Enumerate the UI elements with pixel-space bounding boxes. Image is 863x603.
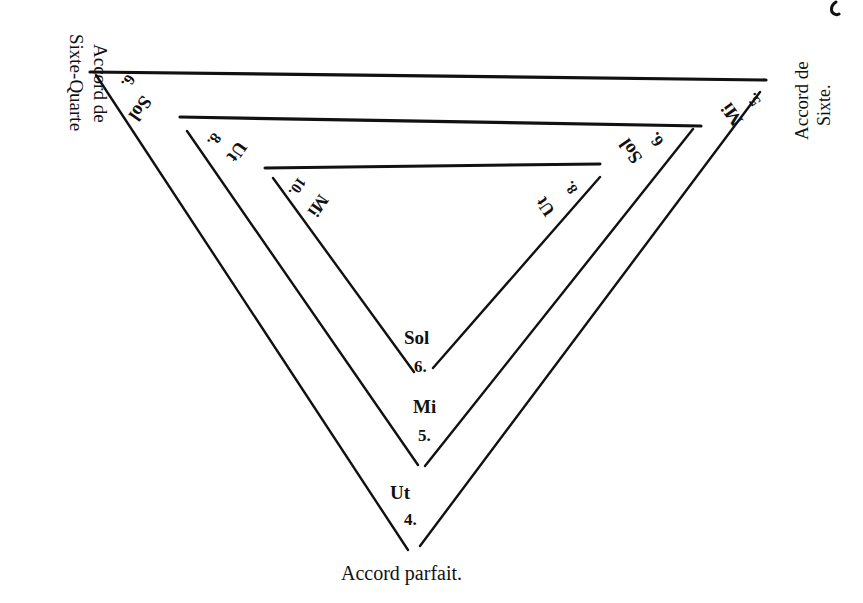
middle-bottom-note: Mi bbox=[413, 396, 436, 417]
outer-left-note: Sol bbox=[125, 92, 157, 125]
outer-left-number: 6. bbox=[118, 71, 139, 91]
outer-triangle bbox=[90, 72, 766, 550]
inner-top-line bbox=[265, 164, 600, 168]
middle-right-line bbox=[425, 129, 693, 466]
middle-top-line bbox=[180, 117, 701, 126]
number-text: 8. bbox=[561, 178, 581, 197]
middle-left-note: Ut bbox=[223, 138, 252, 167]
middle-right-note: Sol bbox=[614, 135, 646, 168]
number-text: 10. bbox=[285, 175, 309, 200]
inner-left-line bbox=[273, 178, 414, 372]
inner-bottom-number: 6. bbox=[414, 357, 427, 376]
label-accord-parfait: Accord parfait. bbox=[341, 562, 462, 585]
note-text: Sol bbox=[614, 135, 646, 168]
outer-right-line bbox=[420, 92, 760, 546]
label-sixte-line2: Sixte. bbox=[814, 84, 834, 126]
inner-left-note: Mi bbox=[304, 191, 333, 220]
outer-top-line bbox=[90, 72, 766, 80]
number-text: 8. bbox=[204, 130, 225, 150]
inner-right-number: 8. bbox=[561, 178, 581, 197]
note-text: Mi bbox=[717, 99, 748, 130]
note-text: Sol bbox=[125, 92, 157, 125]
inner-right-note: Ut bbox=[531, 193, 558, 220]
note-text: Ut bbox=[531, 193, 558, 220]
triangle-diagram: Accord de Sixte-Quarte Accord de Sixte. … bbox=[0, 0, 863, 603]
middle-left-number: 8. bbox=[204, 130, 225, 150]
label-sixte-quarte-line1: Accord de bbox=[90, 44, 111, 123]
ink-mark bbox=[832, 2, 840, 15]
number-text: 6. bbox=[118, 71, 139, 91]
note-text: Ut bbox=[223, 138, 252, 167]
inner-bottom-note: Sol bbox=[404, 327, 429, 348]
label-sixte: Accord de Sixte. bbox=[791, 61, 834, 140]
inner-left-number: 10. bbox=[285, 175, 309, 200]
middle-right-number: 6. bbox=[645, 129, 668, 150]
label-sixte-quarte-line2: Sixte-Quarte bbox=[66, 34, 87, 131]
outer-left-line bbox=[96, 75, 408, 550]
outer-bottom-note: Ut bbox=[390, 482, 411, 503]
number-text: 6. bbox=[645, 129, 668, 150]
outer-bottom-number: 4. bbox=[404, 510, 417, 529]
middle-bottom-number: 5. bbox=[418, 426, 431, 445]
label-sixte-line1: Accord de bbox=[791, 61, 812, 140]
outer-right-note: Mi bbox=[717, 99, 748, 130]
note-text: Mi bbox=[304, 191, 333, 220]
middle-triangle bbox=[180, 117, 701, 466]
label-sixte-quarte: Accord de Sixte-Quarte bbox=[66, 34, 111, 131]
